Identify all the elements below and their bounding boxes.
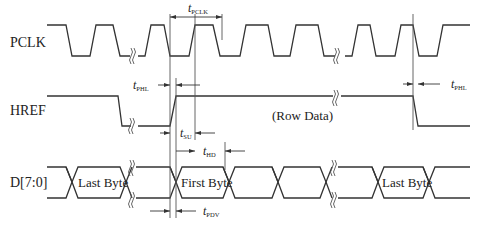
svg-text:tPCLK: tPCLK [188,1,208,15]
timing-diagram: PCLK HREF D[7:0] (Row Data) [0,0,479,230]
href-waveform [47,90,470,134]
t-pclk-annotation: tPCLK [170,1,222,19]
pclk-waveform [47,25,470,64]
last-byte-label-2: Last Byte [382,175,432,190]
svg-text:tSU: tSU [180,126,192,140]
first-byte-label: First Byte [181,175,233,190]
t-phl-annotation-2: tPHL [403,77,467,91]
last-byte-label-1: Last Byte [78,175,128,190]
t-pdv-annotation: tPDV [150,204,220,218]
pclk-label: PCLK [10,35,46,50]
row-data-label: (Row Data) [272,108,333,123]
svg-text:tHD: tHD [203,144,216,158]
href-break-icon-2 [333,90,339,106]
data-bus-label: D[7:0] [10,175,47,190]
t-su-annotation: tSU [160,126,215,140]
svg-text:tPHL: tPHL [133,78,149,92]
t-hd-annotation: tHD [176,144,245,158]
t-phl-annotation-1: tPHL [133,78,200,92]
svg-text:tPHL: tPHL [451,77,467,91]
pclk-break-icon [130,48,136,64]
svg-text:tPDV: tPDV [203,204,220,218]
href-label: HREF [10,103,46,118]
